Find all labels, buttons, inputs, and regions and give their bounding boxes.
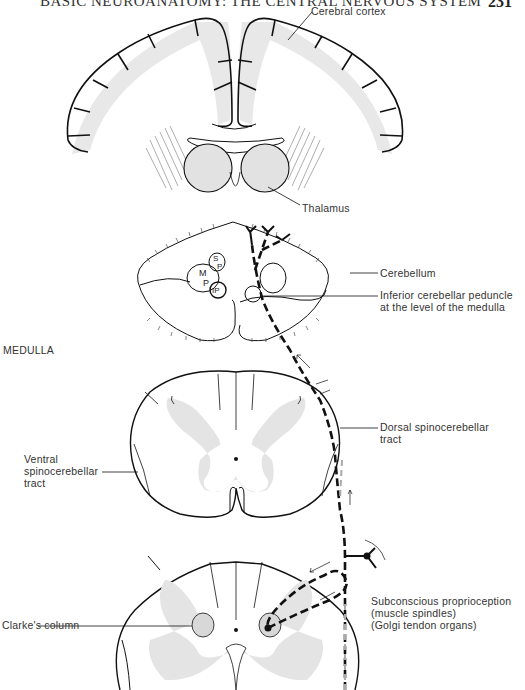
internal-capsule-hatching bbox=[146, 126, 324, 190]
nucleus-p: P bbox=[203, 278, 209, 288]
medulla-section bbox=[130, 371, 339, 517]
neuron-body-clarke bbox=[265, 625, 272, 632]
label-proprioception-3: (Golgi tendon organs) bbox=[371, 620, 477, 632]
clarkes-column-left bbox=[192, 613, 214, 637]
cerebellum-folia bbox=[147, 224, 319, 342]
label-proprioception-1: Subconscious proprioception bbox=[371, 596, 511, 608]
label-ventral-tract-2: spinocerebellar bbox=[24, 466, 98, 478]
label-ventral-tract-3: tract bbox=[24, 478, 45, 490]
label-cerebellum: Cerebellum bbox=[380, 268, 436, 280]
clarkes-column-right bbox=[259, 613, 281, 637]
cerebellum-drawing bbox=[138, 222, 329, 341]
label-ventral-tract-1: Ventral bbox=[24, 454, 58, 466]
neuroanatomy-diagram: M P S P IP bbox=[0, 0, 525, 690]
left-thalamus bbox=[184, 144, 232, 192]
nucleus-ip: IP bbox=[212, 286, 220, 295]
label-clarkes-column: Clarke's column bbox=[2, 620, 79, 632]
nucleus-sp-p: P bbox=[217, 262, 222, 271]
label-inferior-peduncle-2: at the level of the medulla bbox=[380, 302, 505, 314]
label-dorsal-tract-1: Dorsal spinocerebellar bbox=[380, 422, 489, 434]
label-thalamus: Thalamus bbox=[302, 203, 350, 215]
section-label-medulla: MEDULLA bbox=[3, 345, 54, 357]
label-dorsal-tract-2: tract bbox=[380, 434, 401, 446]
label-inferior-peduncle-1: Inferior cerebellar peduncle bbox=[380, 290, 513, 302]
nucleus-m: M bbox=[199, 268, 207, 278]
cerebral-cortex-drawing bbox=[67, 18, 402, 154]
label-proprioception-2: (muscle spindles) bbox=[371, 608, 456, 620]
label-cerebral-cortex: Cerebral cortex bbox=[311, 6, 386, 18]
right-thalamus bbox=[241, 144, 289, 192]
